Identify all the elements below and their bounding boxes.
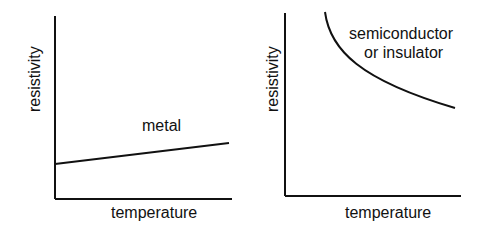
right-x-axis-label: temperature <box>345 205 431 221</box>
metal-label: metal <box>142 118 181 134</box>
metal-line <box>55 143 229 164</box>
right-y-axis-label: resistivity <box>265 46 281 112</box>
left-y-axis-label: resistivity <box>27 46 43 112</box>
insulator-label: or insulator <box>364 45 443 61</box>
left-chart <box>55 16 232 199</box>
left-x-axis-label: temperature <box>111 205 197 221</box>
semiconductor-label: semiconductor <box>349 26 453 42</box>
